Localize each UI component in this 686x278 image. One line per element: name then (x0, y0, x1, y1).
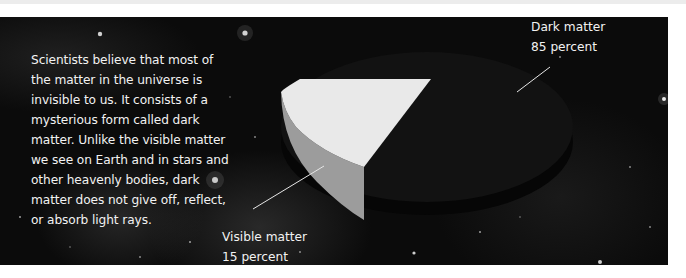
description-line: mysterious form called dark (31, 110, 246, 130)
dark-matter-label-name: Dark matter (531, 17, 605, 37)
description-line: the matter in the universe is (31, 70, 246, 90)
dark-matter-label-value: 85 percent (531, 37, 605, 57)
top-border (0, 0, 686, 4)
description-line: Scientists believe that most of (31, 50, 246, 70)
description-line: invisible to us. It consists of a (31, 90, 246, 110)
visible-matter-label: Visible matter 15 percent (222, 227, 307, 265)
description-text: Scientists believe that most of the matt… (31, 50, 246, 230)
description-line: or absorb light rays. (31, 210, 246, 230)
infographic-panel: Scientists believe that most of the matt… (0, 17, 668, 265)
visible-matter-label-name: Visible matter (222, 227, 307, 247)
dark-matter-label: Dark matter 85 percent (531, 17, 605, 57)
description-line: matter does not give off, reflect, (31, 190, 246, 210)
description-line: matter. Unlike the visible matter (31, 130, 246, 150)
visible-matter-label-value: 15 percent (222, 247, 307, 265)
description-line: we see on Earth and in stars and (31, 150, 246, 170)
description-line: other heavenly bodies, dark (31, 170, 246, 190)
